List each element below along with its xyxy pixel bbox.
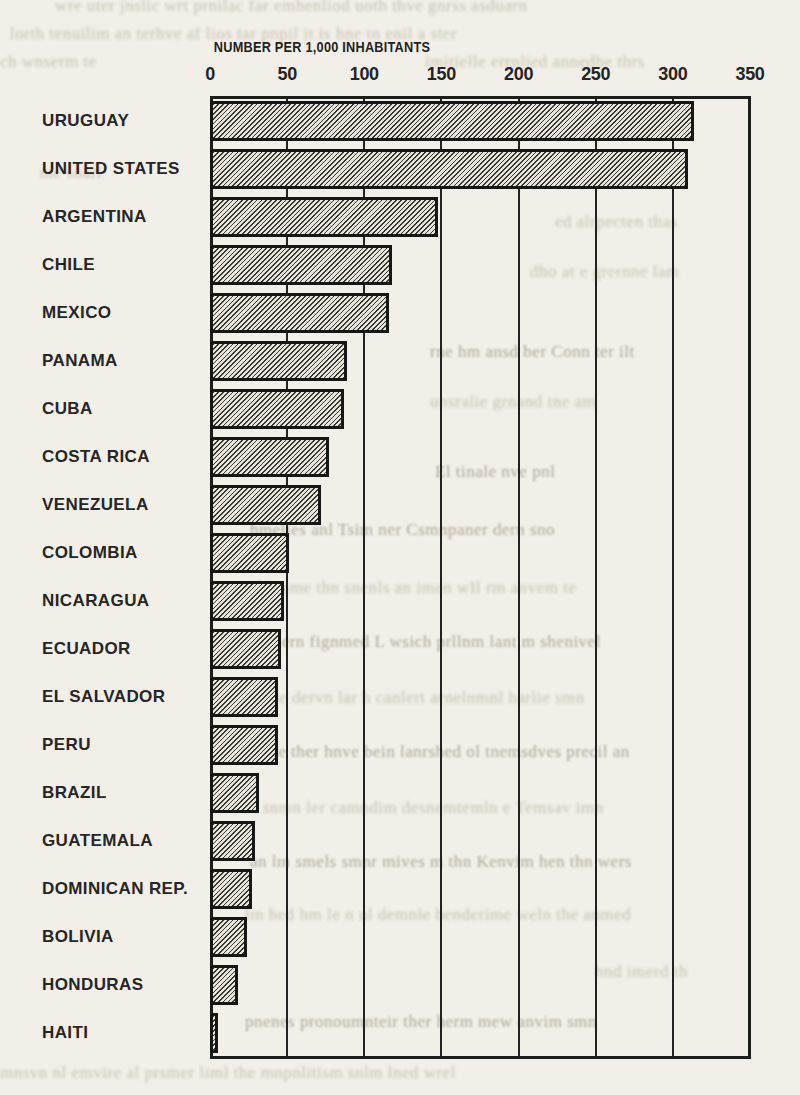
country-label-costa-rica: COSTA RICA: [42, 446, 150, 468]
bar-guatemala: [210, 821, 255, 861]
bar-ecuador: [210, 629, 281, 669]
country-label-dominican-rep: DOMINICAN REP.: [42, 878, 188, 900]
bar-haiti: [210, 1013, 218, 1053]
bar-peru: [210, 725, 278, 765]
x-tick-label-100: 100: [334, 64, 394, 85]
bar-bolivia: [210, 917, 247, 957]
bar-costa-rica: [210, 437, 329, 477]
bleed-text-line: mnsvn nl emvire al prsmer liml the mnpnl…: [0, 1063, 800, 1083]
country-label-peru: PERU: [42, 734, 91, 756]
bar-el-salvador: [210, 677, 278, 717]
gridline-150: [440, 99, 442, 1056]
country-label-el-salvador: EL SALVADOR: [42, 686, 165, 708]
x-tick-label-300: 300: [643, 64, 703, 85]
x-tick-label-150: 150: [411, 64, 471, 85]
bar-united-states: [210, 149, 688, 189]
x-tick-label-0: 0: [180, 64, 240, 85]
country-label-ecuador: ECUADOR: [42, 638, 131, 660]
country-label-colombia: COLOMBIA: [42, 542, 138, 564]
x-tick-label-350: 350: [720, 64, 780, 85]
country-label-honduras: HONDURAS: [42, 974, 143, 996]
plot-frame: [210, 96, 751, 1059]
country-label-bolivia: BOLIVIA: [42, 926, 114, 948]
x-tick-label-50: 50: [257, 64, 317, 85]
bar-panama: [210, 341, 347, 381]
country-label-argentina: ARGENTINA: [42, 206, 147, 228]
country-label-venezuela: VENEZUELA: [42, 494, 149, 516]
x-tick-label-250: 250: [566, 64, 626, 85]
bleed-text-line: wre uter jnslic wrt prnilac far emhenlio…: [55, 0, 795, 16]
country-label-mexico: MEXICO: [42, 302, 111, 324]
gridline-250: [595, 99, 597, 1056]
country-label-nicaragua: NICARAGUA: [42, 590, 149, 612]
bar-mexico: [210, 293, 389, 333]
country-label-uruguay: URUGUAY: [42, 110, 129, 132]
gridline-300: [672, 99, 674, 1056]
gridline-100: [363, 99, 365, 1056]
scanned-book-page: wre uter jnslic wrt prnilac far emhenlio…: [0, 0, 800, 1095]
bar-nicaragua: [210, 581, 284, 621]
country-label-panama: PANAMA: [42, 350, 118, 372]
chart-title: NUMBER PER 1,000 INHABITANTS: [214, 38, 430, 56]
country-label-guatemala: GUATEMALA: [42, 830, 153, 852]
bar-brazil: [210, 773, 259, 813]
bar-dominican-rep: [210, 869, 252, 909]
bar-venezuela: [210, 485, 321, 525]
bar-cuba: [210, 389, 344, 429]
bar-uruguay: [210, 101, 694, 141]
bleed-text-line: ch wnserm te: [0, 52, 195, 72]
bar-chile: [210, 245, 392, 285]
country-label-cuba: CUBA: [42, 398, 93, 420]
bar-colombia: [210, 533, 289, 573]
country-label-united-states: UNITED STATES: [42, 158, 180, 180]
x-tick-label-200: 200: [489, 64, 549, 85]
country-label-brazil: BRAZIL: [42, 782, 107, 804]
gridline-50: [286, 99, 288, 1056]
country-label-haiti: HAITI: [42, 1022, 88, 1044]
gridline-200: [518, 99, 520, 1056]
country-label-chile: CHILE: [42, 254, 95, 276]
bar-argentina: [210, 197, 438, 237]
bar-honduras: [210, 965, 238, 1005]
